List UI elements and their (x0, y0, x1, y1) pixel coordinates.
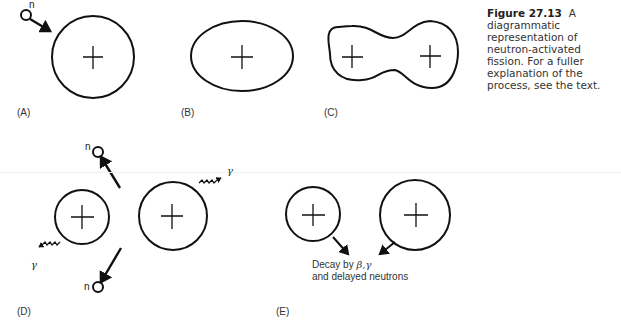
panel-label-d: (D) (17, 306, 31, 317)
panel-b-graphic (191, 21, 293, 91)
decay-annotation: Decay by β,γ and delayed neutrons (312, 259, 408, 283)
decay-line2: and delayed neutrons (312, 271, 408, 282)
gamma-label-lower: γ (31, 259, 37, 270)
panel-label-b: (B) (181, 107, 194, 118)
panel-label-a: (A) (17, 107, 30, 118)
divider (0, 172, 621, 173)
neutron-label-d-bottom: n (84, 281, 90, 292)
panel-label-e: (E) (276, 306, 289, 317)
panel-label-c: (C) (324, 107, 338, 118)
panel-c-graphic (328, 21, 458, 88)
panel-e-graphic (286, 180, 450, 254)
caption-text: A diagrammatic representation of neutron… (487, 7, 600, 91)
neutron-label-d-top: n (85, 141, 91, 152)
gamma-label-upper: γ (227, 165, 233, 176)
figure-number: Figure 27.13 (487, 7, 562, 19)
decay-symbols: β,γ (356, 259, 371, 270)
figure-caption: Figure 27.13 A diagrammatic representati… (487, 7, 621, 91)
panel-a-graphic (21, 10, 134, 98)
decay-prefix: Decay by (312, 259, 356, 270)
neutron-label-a: n (29, 0, 35, 10)
panel-d-graphic (39, 147, 221, 292)
